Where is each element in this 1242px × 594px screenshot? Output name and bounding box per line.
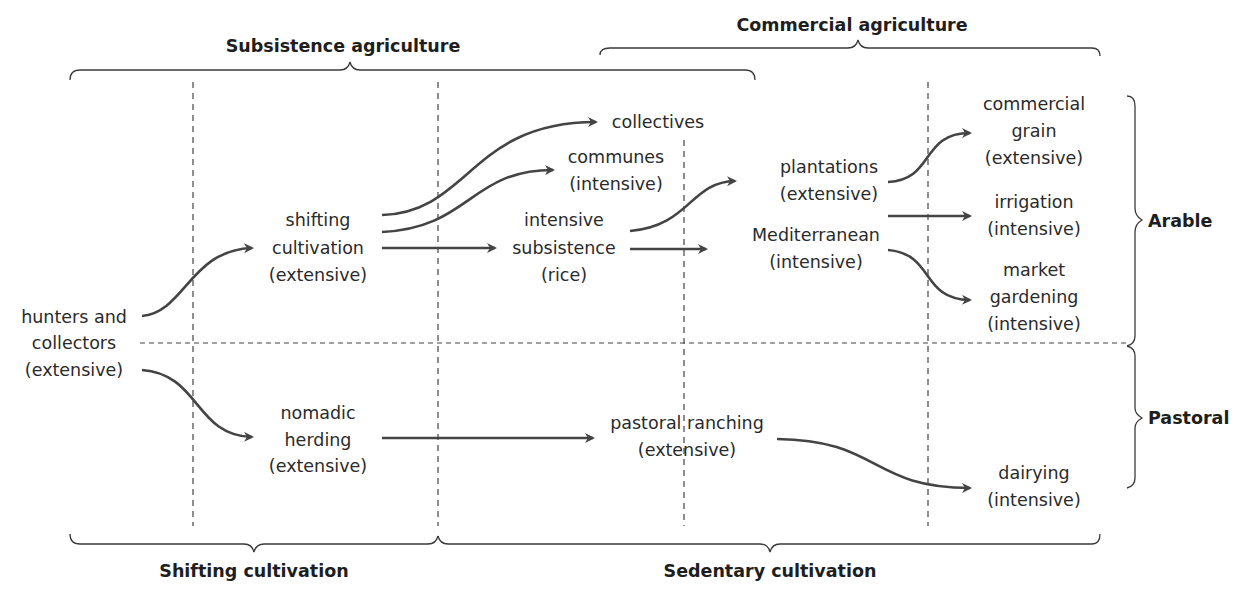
svg-text:collectors: collectors [32,333,116,353]
svg-text:(intensive): (intensive) [769,252,862,272]
arrow-hunters-to-nomadic [142,370,252,437]
svg-text:(extensive): (extensive) [985,148,1083,168]
svg-text:commercial: commercial [983,94,1085,114]
svg-text:(extensive): (extensive) [780,184,878,204]
svg-text:(extensive): (extensive) [269,265,367,285]
svg-text:grain: grain [1012,121,1057,141]
node-hunters-collectors: hunters and collectors (extensive) [21,307,127,380]
arrow-hunters-to-shifting [142,248,252,316]
node-pastoral-ranching: pastoral ranching (extensive) [610,413,764,460]
arrow-shifting-to-collectives [382,122,596,215]
subsistence-brace [70,62,755,80]
pastoral-heading: Pastoral [1148,408,1229,428]
node-commercial-grain: commercial grain (extensive) [983,94,1085,168]
pastoral-brace [1127,346,1142,488]
svg-text:dairying: dairying [998,463,1069,483]
arrow-plantations-to-commercial-grain [888,133,970,182]
node-intensive-subsistence: intensive subsistence (rice) [512,210,616,285]
node-collectives: collectives [612,112,704,132]
arrow-pastoral-ranching-to-dairying [777,439,970,488]
svg-text:hunters and: hunters and [21,307,127,327]
arrow-mediterranean-to-market-gardening [888,250,970,300]
svg-text:gardening: gardening [990,287,1079,307]
node-irrigation: irrigation (intensive) [987,192,1080,239]
svg-text:(intensive): (intensive) [987,490,1080,510]
node-plantations: plantations (extensive) [780,157,878,204]
svg-text:(extensive): (extensive) [25,360,123,380]
svg-text:(intensive): (intensive) [987,314,1080,334]
node-mediterranean: Mediterranean (intensive) [752,225,880,272]
commercial-brace [600,40,1100,56]
node-market-gardening: market gardening (intensive) [987,260,1080,334]
svg-text:irrigation: irrigation [994,192,1073,212]
svg-text:(intensive): (intensive) [987,219,1080,239]
shifting-heading: Shifting cultivation [159,561,348,581]
svg-text:cultivation: cultivation [272,238,364,258]
svg-text:shifting: shifting [286,210,351,230]
svg-text:intensive: intensive [524,210,604,230]
svg-text:Mediterranean: Mediterranean [752,225,880,245]
agriculture-classification-diagram: Subsistence agriculture Commercial agric… [0,0,1242,594]
svg-text:herding: herding [285,430,352,450]
node-communes: communes (intensive) [568,147,665,194]
svg-text:(rice): (rice) [541,265,587,285]
svg-text:plantations: plantations [780,157,878,177]
svg-text:subsistence: subsistence [512,238,616,258]
shifting-brace [70,534,438,552]
arable-brace [1127,96,1142,346]
sedentary-brace [438,534,1100,552]
node-nomadic-herding: nomadic herding (extensive) [269,403,367,476]
svg-text:communes: communes [568,147,665,167]
svg-text:(extensive): (extensive) [269,456,367,476]
svg-text:nomadic: nomadic [280,403,355,423]
sedentary-heading: Sedentary cultivation [664,561,877,581]
node-shifting-cultivation: shifting cultivation (extensive) [269,210,367,285]
svg-text:(extensive): (extensive) [638,440,736,460]
arable-heading: Arable [1148,211,1213,231]
node-dairying: dairying (intensive) [987,463,1080,510]
svg-text:(intensive): (intensive) [569,174,662,194]
commercial-heading: Commercial agriculture [736,15,967,35]
subsistence-heading: Subsistence agriculture [226,36,461,56]
svg-text:market: market [1003,260,1065,280]
svg-text:pastoral ranching: pastoral ranching [610,413,764,433]
svg-text:collectives: collectives [612,112,704,132]
